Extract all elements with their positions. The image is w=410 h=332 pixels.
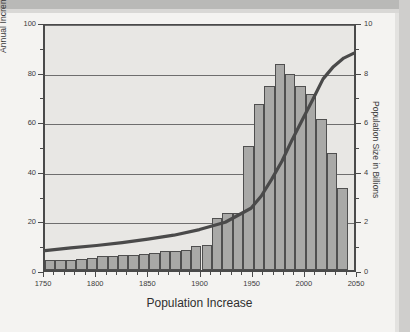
x-axis-tick-label: 2000 bbox=[289, 279, 319, 288]
plot-area bbox=[43, 24, 356, 272]
x-axis-tick-label: 1750 bbox=[28, 279, 58, 288]
y-axis-left-tick bbox=[38, 74, 43, 75]
y-axis-right-tick-label: 6 bbox=[364, 118, 384, 127]
figure-page: Annual Increments in Millions Population… bbox=[0, 0, 410, 332]
y-axis-right-tick bbox=[356, 24, 361, 25]
y-axis-right-minor-tick bbox=[356, 98, 359, 99]
population-size-curve bbox=[45, 25, 354, 270]
y-axis-left-tick bbox=[38, 222, 43, 223]
x-axis-tick bbox=[200, 272, 201, 277]
y-axis-right-tick bbox=[356, 123, 361, 124]
page-top-band bbox=[0, 0, 410, 9]
y-axis-left-tick-label: 40 bbox=[10, 168, 36, 177]
x-axis-minor-tick bbox=[189, 272, 190, 275]
x-axis-minor-tick bbox=[64, 272, 65, 275]
x-axis-tick-label: 1900 bbox=[185, 279, 215, 288]
y-axis-left-minor-tick bbox=[40, 98, 43, 99]
y-axis-left-tick bbox=[38, 123, 43, 124]
y-axis-left-tick bbox=[38, 173, 43, 174]
x-axis-tick-label: 1950 bbox=[237, 279, 267, 288]
x-axis-tick bbox=[147, 272, 148, 277]
x-axis-minor-tick bbox=[137, 272, 138, 275]
x-axis-minor-tick bbox=[126, 272, 127, 275]
x-axis-minor-tick bbox=[168, 272, 169, 275]
y-axis-left-tick-label: 0 bbox=[10, 267, 36, 276]
x-axis-minor-tick bbox=[283, 272, 284, 275]
y-axis-right-minor-tick bbox=[356, 247, 359, 248]
y-axis-right-minor-tick bbox=[356, 148, 359, 149]
y-axis-right-tick-label: 8 bbox=[364, 69, 384, 78]
x-axis-minor-tick bbox=[335, 272, 336, 275]
x-axis-minor-tick bbox=[74, 272, 75, 275]
y-axis-left-tick-label: 80 bbox=[10, 69, 36, 78]
x-axis-minor-tick bbox=[231, 272, 232, 275]
y-axis-right-tick bbox=[356, 222, 361, 223]
x-axis-minor-tick bbox=[53, 272, 54, 275]
x-axis-minor-tick bbox=[85, 272, 86, 275]
population-chart: Annual Increments in Millions Population… bbox=[0, 13, 395, 332]
y-axis-right-tick-label: 0 bbox=[364, 267, 384, 276]
x-axis-minor-tick bbox=[116, 272, 117, 275]
x-axis-label: Population Increase bbox=[43, 296, 356, 310]
x-axis-tick bbox=[304, 272, 305, 277]
x-axis-tick-label: 1850 bbox=[132, 279, 162, 288]
x-axis-minor-tick bbox=[262, 272, 263, 275]
y-axis-left-minor-tick bbox=[40, 247, 43, 248]
y-axis-left-minor-tick bbox=[40, 49, 43, 50]
x-axis-tick bbox=[356, 272, 357, 277]
x-axis-minor-tick bbox=[220, 272, 221, 275]
x-axis-minor-tick bbox=[241, 272, 242, 275]
x-axis-tick-label: 2050 bbox=[341, 279, 371, 288]
x-axis-minor-tick bbox=[273, 272, 274, 275]
x-axis-minor-tick bbox=[314, 272, 315, 275]
x-axis-tick bbox=[252, 272, 253, 277]
x-axis-minor-tick bbox=[179, 272, 180, 275]
x-axis-tick bbox=[43, 272, 44, 277]
x-axis-minor-tick bbox=[106, 272, 107, 275]
x-axis-minor-tick bbox=[158, 272, 159, 275]
page-right-band bbox=[399, 0, 410, 332]
x-axis-minor-tick bbox=[210, 272, 211, 275]
x-axis-minor-tick bbox=[293, 272, 294, 275]
y-axis-left-label: Annual Increments in Millions bbox=[0, 0, 8, 53]
x-axis-tick bbox=[95, 272, 96, 277]
y-axis-left-minor-tick bbox=[40, 148, 43, 149]
y-axis-left-minor-tick bbox=[40, 198, 43, 199]
y-axis-left-tick-label: 100 bbox=[10, 19, 36, 28]
x-axis-minor-tick bbox=[325, 272, 326, 275]
y-axis-right-tick bbox=[356, 173, 361, 174]
y-axis-right-minor-tick bbox=[356, 49, 359, 50]
x-axis-tick-label: 1800 bbox=[80, 279, 110, 288]
y-axis-right-tick-label: 10 bbox=[364, 19, 384, 28]
y-axis-right-tick-label: 2 bbox=[364, 217, 384, 226]
y-axis-left-tick bbox=[38, 24, 43, 25]
y-axis-right-tick-label: 4 bbox=[364, 168, 384, 177]
y-axis-left-tick-label: 60 bbox=[10, 118, 36, 127]
y-axis-right-tick bbox=[356, 74, 361, 75]
y-axis-right-minor-tick bbox=[356, 198, 359, 199]
population-curve-path bbox=[45, 53, 354, 250]
y-axis-left-tick-label: 20 bbox=[10, 217, 36, 226]
x-axis-minor-tick bbox=[346, 272, 347, 275]
